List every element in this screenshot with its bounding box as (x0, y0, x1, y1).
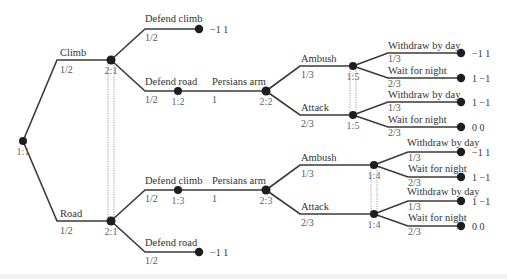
decision-node (107, 217, 116, 226)
edge-probability: 1/2 (145, 255, 158, 266)
decision-node (349, 62, 357, 70)
edge-probability: 1/2 (145, 193, 158, 204)
edge-probability: 1/2 (145, 94, 158, 105)
edge-probability: 1 (212, 193, 217, 204)
payoff-label: 1 −1 (472, 196, 490, 207)
edge-action-label: Defend climb (145, 175, 202, 186)
edge-action-label: Withdraw by day (388, 89, 461, 100)
terminal-node (457, 49, 465, 57)
edge-action-label: Defend climb (145, 13, 202, 24)
terminal-node (195, 25, 203, 33)
edge-probability: 1/3 (301, 69, 314, 80)
payoff-label: 1 −1 (472, 172, 490, 183)
node-label: 2:1 (105, 226, 118, 237)
payoff-label: −1 1 (210, 24, 228, 35)
edge-probability: 1 (212, 94, 217, 105)
edge-action-label: Withdraw by day (407, 186, 480, 197)
bottom-edge-strip (0, 274, 507, 279)
node-label: 1:4 (368, 219, 381, 230)
payoff-label: −1 1 (472, 48, 490, 59)
payoff-label: 1 −1 (472, 97, 490, 108)
edge-line (266, 165, 374, 190)
edge-action-label: Ambush (301, 53, 337, 64)
edge-probability: 1/2 (145, 32, 158, 43)
edge-probability: 1/3 (301, 168, 314, 179)
node-label: 1:1 (17, 146, 30, 157)
edge-action-label: Persians arm (212, 76, 266, 87)
decision-node (262, 87, 271, 96)
node-label: 2:2 (260, 96, 273, 107)
edge-probability: 1/2 (60, 64, 73, 75)
edge-action-label: Persians arm (212, 175, 266, 186)
terminal-node (457, 222, 465, 230)
terminal-node (457, 148, 465, 156)
decision-node (107, 56, 116, 65)
edge-probability: 1/3 (408, 201, 421, 212)
edge-action-label: Defend road (145, 237, 198, 248)
edge-action-label: Wait for night (408, 163, 467, 174)
node-label: 1:4 (368, 170, 381, 181)
edge-action-label: Attack (301, 201, 330, 212)
edge-action-label: Ambush (301, 152, 337, 163)
edge-action-label: Attack (301, 102, 330, 113)
decision-node (370, 210, 378, 218)
edges: Climb1/2Road1/2Defend climb1/2Defend roa… (23, 13, 480, 266)
payoff-label: 0 0 (472, 122, 485, 133)
payoff-label: 1 −1 (472, 73, 490, 84)
terminal-node (195, 248, 203, 256)
decision-node (349, 111, 357, 119)
terminal-node (457, 98, 465, 106)
edge-action-label: Wait for night (408, 212, 467, 223)
edge-action-label: Climb (60, 47, 86, 58)
edge-action-label: Withdraw by day (407, 137, 480, 148)
edge-probability: 1/2 (60, 225, 73, 236)
edge-probability: 1/3 (388, 102, 401, 113)
payoff-label: −1 1 (472, 147, 490, 158)
edge-probability: 2/3 (388, 78, 401, 89)
edge-action-label: Road (60, 208, 83, 219)
edge-action-label: Wait for night (388, 65, 447, 76)
edge-action-label: Wait for night (388, 114, 447, 125)
decision-node (19, 137, 27, 145)
decision-node (370, 161, 378, 169)
payoff-label: 0 0 (472, 221, 485, 232)
edge-action-label: Defend road (145, 76, 198, 87)
terminal-node (457, 74, 465, 82)
node-label: 2:1 (105, 65, 118, 76)
terminal-node (457, 197, 465, 205)
decision-node (174, 87, 182, 95)
edge-probability: 2/3 (388, 127, 401, 138)
decision-node (262, 186, 271, 195)
decision-node (174, 186, 182, 194)
terminal-node (457, 123, 465, 131)
node-label: 2:3 (260, 195, 273, 206)
edge-probability: 2/3 (301, 118, 314, 129)
terminal-node (457, 173, 465, 181)
payoff-label: −1 1 (210, 247, 228, 258)
game-tree-diagram: Climb1/2Road1/2Defend climb1/2Defend roa… (0, 0, 507, 279)
edge-probability: 2/3 (408, 226, 421, 237)
game-tree-svg: Climb1/2Road1/2Defend climb1/2Defend roa… (0, 0, 507, 279)
node-label: 1:5 (347, 71, 360, 82)
edge-action-label: Withdraw by day (388, 40, 461, 51)
node-label: 1:5 (347, 120, 360, 131)
edge-probability: 1/3 (408, 152, 421, 163)
node-label: 1:2 (172, 96, 185, 107)
edge-probability: 1/3 (388, 53, 401, 64)
edge-probability: 2/3 (301, 217, 314, 228)
node-label: 1:3 (172, 195, 185, 206)
